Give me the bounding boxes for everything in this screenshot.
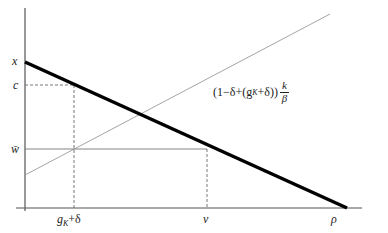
- label-x: x: [12, 55, 17, 67]
- diagram-canvas: [0, 0, 388, 233]
- label-c: c: [13, 79, 18, 91]
- label-g-delta: gK+δ: [57, 213, 81, 228]
- fraction: k β: [280, 80, 289, 104]
- rising-line-formula: (1−δ+(gK+δ)) k β: [213, 80, 289, 104]
- label-w-bar: w̄: [11, 143, 19, 155]
- thick-line: [25, 62, 347, 208]
- label-v: v: [203, 213, 208, 225]
- label-rho: ρ: [331, 213, 337, 225]
